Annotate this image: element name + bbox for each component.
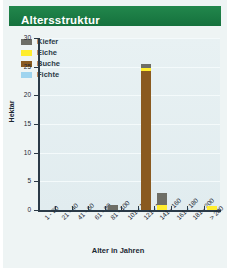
y-axis-label: 25 bbox=[9, 63, 31, 70]
gridline bbox=[39, 95, 220, 96]
y-axis-label: 0 bbox=[9, 206, 31, 213]
y-axis-tick bbox=[34, 181, 39, 182]
gridline bbox=[39, 67, 220, 68]
x-axis-tick bbox=[72, 206, 73, 212]
y-axis-label: 5 bbox=[9, 177, 31, 184]
x-axis-tick bbox=[121, 206, 122, 212]
legend-item-fichte: Fichte bbox=[21, 69, 60, 80]
y-axis-label: 10 bbox=[9, 149, 31, 156]
plot-region bbox=[39, 38, 220, 210]
x-axis-tick bbox=[88, 206, 89, 212]
legend-swatch-eiche bbox=[21, 50, 32, 56]
gridline bbox=[39, 181, 220, 182]
bar-stack bbox=[157, 193, 167, 210]
y-axis-label: 15 bbox=[9, 120, 31, 127]
x-axis-tick bbox=[204, 206, 205, 212]
gridline bbox=[39, 153, 220, 154]
legend-label: Eiche bbox=[37, 48, 57, 57]
bar-stack bbox=[207, 206, 217, 210]
y-axis-label: 30 bbox=[9, 34, 31, 41]
x-axis-tick bbox=[39, 206, 40, 212]
x-axis-tick bbox=[171, 206, 172, 212]
y-axis-label: 20 bbox=[9, 91, 31, 98]
x-axis-title: Alter in Jahren bbox=[3, 246, 230, 255]
legend-item-eiche: Eiche bbox=[21, 47, 60, 58]
legend-label: Kiefer bbox=[37, 37, 58, 46]
legend-swatch-fichte bbox=[21, 72, 32, 78]
y-axis-tick bbox=[34, 153, 39, 154]
legend: KieferEicheBucheFichte bbox=[21, 36, 60, 80]
gridline bbox=[39, 124, 220, 125]
bar-segment-buche bbox=[141, 71, 151, 210]
x-axis-tick bbox=[105, 206, 106, 212]
chart-area: Hektar Alter in Jahren KieferEicheBucheF… bbox=[3, 30, 230, 262]
x-axis-tick bbox=[187, 206, 188, 212]
chart-card: Altersstruktur Hektar Alter in Jahren Ki… bbox=[0, 0, 230, 268]
x-axis-tick bbox=[55, 206, 56, 212]
bar-segment-eiche bbox=[207, 206, 217, 210]
gridline bbox=[39, 38, 220, 39]
y-axis-tick bbox=[34, 38, 39, 39]
page-title: Altersstruktur bbox=[21, 14, 100, 26]
y-axis-tick bbox=[34, 95, 39, 96]
legend-label: Fichte bbox=[37, 70, 59, 79]
x-axis-tick bbox=[154, 206, 155, 212]
bar-stack bbox=[141, 64, 151, 210]
y-axis-tick bbox=[34, 124, 39, 125]
bar-segment-kiefer bbox=[108, 205, 118, 210]
title-bar: Altersstruktur bbox=[9, 6, 221, 26]
x-axis-tick bbox=[138, 206, 139, 212]
y-axis-tick bbox=[34, 67, 39, 68]
bar-segment-eiche bbox=[157, 205, 167, 210]
legend-label: Buche bbox=[37, 59, 60, 68]
bar-stack bbox=[108, 205, 118, 210]
bar-segment-kiefer bbox=[157, 193, 167, 204]
